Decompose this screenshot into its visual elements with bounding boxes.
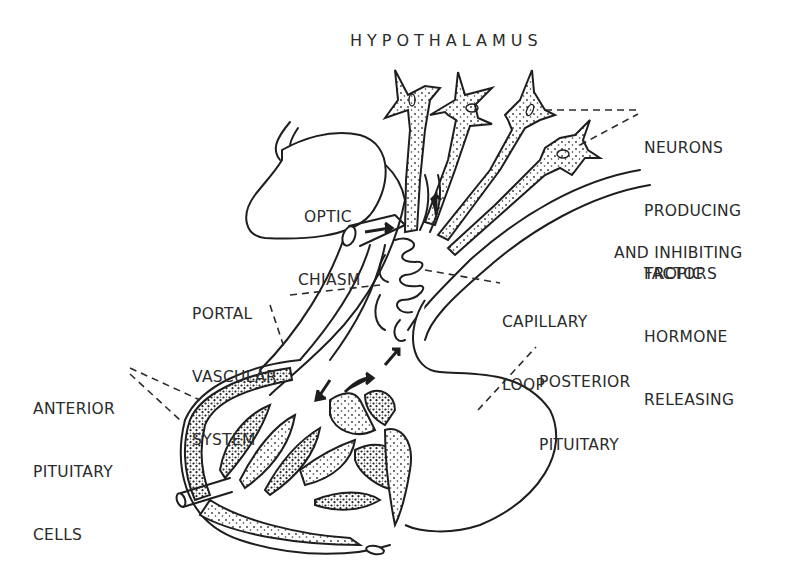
neurons-label-line: HORMONE xyxy=(644,327,741,348)
posterior-label-line: PITUITARY xyxy=(539,435,631,456)
neurons-label-cont2: FACTORS xyxy=(644,222,717,306)
leader-neurons-2 xyxy=(580,114,638,145)
portal-label-line: SYSTEM xyxy=(192,430,277,451)
optic-chiasm-label: OPTIC CHIASM xyxy=(298,165,361,312)
arrow-portal-in xyxy=(365,223,392,233)
leader-anterior-2 xyxy=(130,374,180,420)
neurons-label-line: RELEASING xyxy=(644,390,741,411)
portal-label-line: VASCULAR xyxy=(192,367,277,388)
leader-capillary xyxy=(425,270,500,283)
neurons-label-line: NEURONS xyxy=(644,138,741,159)
posterior-pituitary-label: POSTERIOR PITUITARY xyxy=(539,330,631,477)
neuron-4 xyxy=(448,120,600,255)
posterior-label-line: POSTERIOR xyxy=(539,372,631,393)
neurons-label-line: FACTORS xyxy=(644,264,717,285)
optic-chiasm-label-line: CHIASM xyxy=(298,270,361,291)
optic-chiasm-label-line: OPTIC xyxy=(298,207,361,228)
anterior-label-line: PITUITARY xyxy=(33,462,115,483)
anterior-label-line: CELLS xyxy=(33,525,115,546)
portal-vascular-label: PORTAL VASCULAR SYSTEM xyxy=(192,262,277,472)
anterior-pituitary-cells-label: ANTERIOR PITUITARY CELLS xyxy=(33,357,115,567)
hypothalamic-neurons xyxy=(385,70,600,255)
portal-label-line: PORTAL xyxy=(192,304,277,325)
anterior-label-line: ANTERIOR xyxy=(33,399,115,420)
hypothalamus-title: HYPOTHALAMUS xyxy=(350,30,543,51)
arrow-right-curve xyxy=(345,373,373,392)
arrow-up-right xyxy=(385,349,399,365)
arrow-down-left xyxy=(316,380,330,400)
